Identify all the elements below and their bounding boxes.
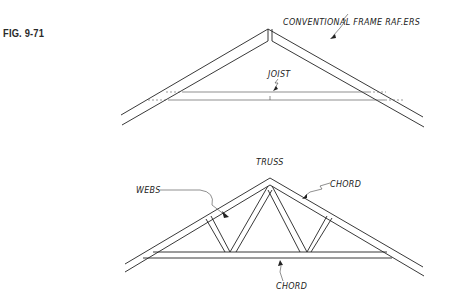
top-chord-callout: CHORD: [330, 180, 361, 189]
truss-drawing: [0, 0, 452, 300]
truss-title: TRUSS: [256, 158, 284, 167]
bottom-chord-callout: CHORD: [276, 282, 307, 291]
webs-callout: WEBS: [136, 186, 161, 195]
